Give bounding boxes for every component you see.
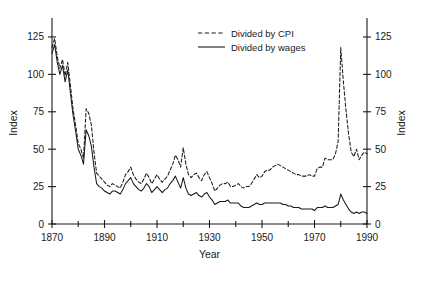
x-tick-label: 1970 <box>303 232 326 243</box>
y-tick-label-left: 50 <box>33 144 45 155</box>
y-tick-label-left: 0 <box>38 219 44 230</box>
series-line-1 <box>52 44 367 213</box>
legend-label-0: Divided by CPI <box>231 28 294 39</box>
y-tick-label-left: 75 <box>33 106 45 117</box>
y-tick-label-left: 100 <box>27 69 44 80</box>
x-tick-label: 1950 <box>251 232 274 243</box>
y-tick-label-right: 125 <box>375 31 392 42</box>
y-tick-label-right: 50 <box>375 144 387 155</box>
y-tick-label-right: 75 <box>375 106 387 117</box>
x-tick-label: 1870 <box>41 232 64 243</box>
y-axis-title-left: Index <box>7 109 19 135</box>
legend-label-1: Divided by wages <box>231 42 306 53</box>
y-axis-title-right: Index <box>395 109 407 135</box>
y-tick-label-left: 25 <box>33 181 45 192</box>
line-chart: 0025255050757510010012512518701890191019… <box>0 0 421 290</box>
y-tick-label-right: 25 <box>375 181 387 192</box>
x-tick-label: 1910 <box>146 232 169 243</box>
x-tick-label: 1890 <box>93 232 116 243</box>
y-tick-label-right: 100 <box>375 69 392 80</box>
x-tick-label: 1930 <box>198 232 221 243</box>
y-tick-label-right: 0 <box>375 219 381 230</box>
y-tick-label-left: 125 <box>27 31 44 42</box>
x-axis-title: Year <box>199 248 221 260</box>
chart-figure: 0025255050757510010012512518701890191019… <box>0 0 421 290</box>
x-tick-label: 1990 <box>356 232 379 243</box>
series-line-0 <box>52 38 367 191</box>
